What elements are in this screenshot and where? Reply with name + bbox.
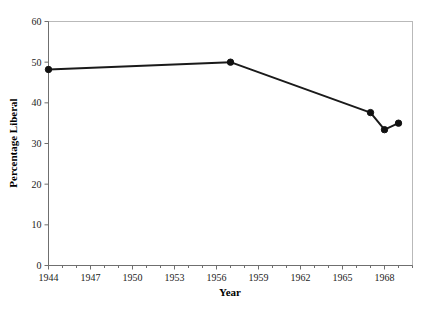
y-tick-label: 40 (32, 97, 42, 108)
y-tick-label: 30 (32, 138, 42, 149)
line-chart: 0102030405060 19441947195019531956195919… (0, 0, 432, 310)
y-tick-label: 10 (32, 219, 42, 230)
chart-background (0, 0, 432, 310)
x-tick-label: 1953 (165, 272, 185, 283)
x-tick-label: 1962 (291, 272, 311, 283)
x-axis-title: Year (219, 286, 241, 298)
x-tick-label: 1956 (207, 272, 227, 283)
x-tick-label: 1950 (123, 272, 143, 283)
series-data-point (367, 109, 373, 115)
y-tick-label: 0 (37, 260, 42, 271)
x-tick-label: 1965 (333, 272, 353, 283)
x-tick-label: 1968 (375, 272, 395, 283)
y-tick-label: 50 (32, 57, 42, 68)
y-tick-label: 20 (32, 179, 42, 190)
series-data-point (45, 66, 51, 72)
y-tick-label: 60 (32, 16, 42, 27)
x-tick-label: 1947 (81, 272, 101, 283)
x-tick-label: 1944 (39, 272, 59, 283)
series-data-point (395, 120, 401, 126)
chart-container: 0102030405060 19441947195019531956195919… (0, 0, 432, 310)
x-tick-label: 1959 (249, 272, 269, 283)
y-axis-title: Percentage Liberal (7, 98, 19, 187)
series-data-point (227, 59, 233, 65)
series-data-point (381, 126, 387, 132)
